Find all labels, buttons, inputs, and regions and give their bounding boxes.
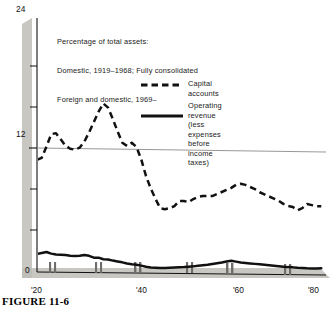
x-axis-label-1940: '40 [136, 285, 147, 295]
y-axis-label-0: 0 [25, 265, 30, 275]
chart-note-line-3: Foreign and domestic, 1969– [57, 95, 198, 105]
legend-swatch-operating-revenue-icon [140, 111, 184, 121]
legend-label-operating-revenue: Operating revenue (less expenses before … [188, 101, 222, 168]
y-axis-label-12: 12 [16, 129, 25, 139]
legend-label-capital-accounts: Capital accounts [188, 79, 219, 98]
x-axis-label-1960: '60 [233, 285, 244, 295]
chart-note-line-2: Domestic, 1919–1968; Fully consolidated [57, 66, 198, 76]
chart-note-line-1: Percentage of total assets: [57, 37, 198, 47]
figure-container: 24 12 0 '20 '40 '60 '80 Percentage of to… [0, 0, 330, 311]
legend-swatch-capital-accounts-icon [140, 80, 184, 90]
x-axis-label-1980: '80 [308, 285, 319, 295]
chart-note-block: Percentage of total assets: Domestic, 19… [57, 18, 198, 124]
legend-label-operating-revenue-line1: Operating revenue [188, 101, 222, 120]
series-line-operating-revenue [37, 252, 321, 268]
legend-label-operating-revenue-line2: (less expenses before [188, 120, 222, 149]
figure-caption: FIGURE 11-6 [2, 295, 69, 307]
legend-label-operating-revenue-line3: income taxes) [188, 149, 222, 168]
x-axis-label-1920: '20 [31, 285, 42, 295]
y-axis-label-24: 24 [16, 4, 25, 14]
